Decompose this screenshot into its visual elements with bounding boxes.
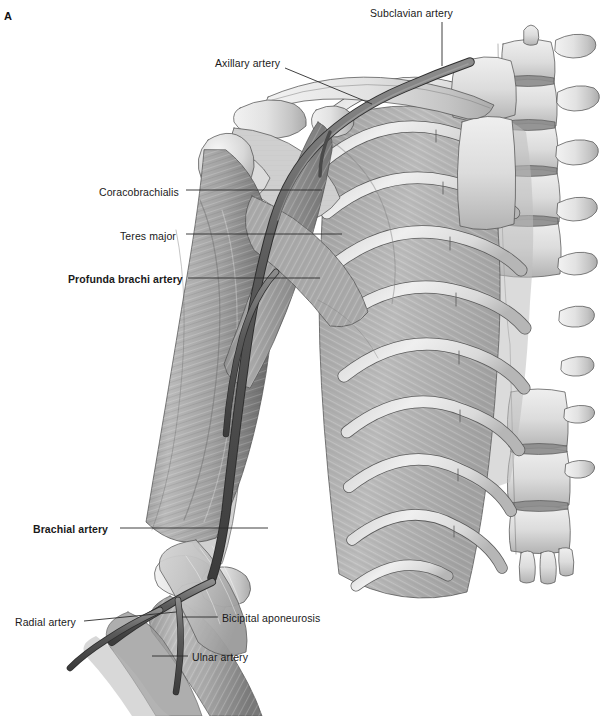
label-brachial-artery: Brachial artery: [33, 524, 108, 536]
label-subclavian-artery: Subclavian artery: [370, 8, 453, 20]
anatomy-illustration: [0, 0, 603, 716]
label-teres-major: Teres major: [120, 231, 176, 243]
figure-canvas: A Subclavian artery Axillary artery Cora…: [0, 0, 603, 716]
label-ulnar-artery: Ulnar artery: [192, 652, 248, 664]
sternum: [451, 57, 516, 230]
label-bicipital-aponeurosis: Bicipital aponeurosis: [222, 613, 320, 625]
panel-letter: A: [4, 10, 12, 22]
label-radial-artery: Radial artery: [15, 617, 76, 629]
label-profunda-brachi-artery: Profunda brachi artery: [68, 274, 183, 286]
label-axillary-artery: Axillary artery: [215, 58, 280, 70]
label-coracobrachialis: Coracobrachialis: [99, 187, 179, 199]
